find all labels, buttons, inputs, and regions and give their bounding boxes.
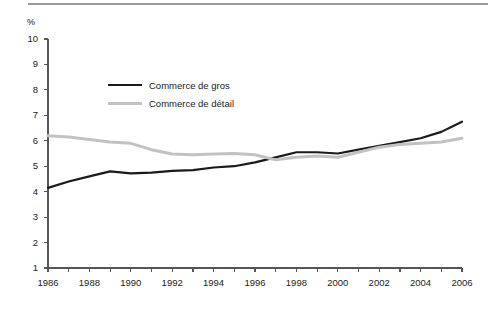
x-axis-tick-label: 2000 — [315, 277, 361, 288]
x-axis-tick-label: 1986 — [25, 277, 71, 288]
series-line-detail — [48, 136, 462, 160]
x-axis-tick-label: 1988 — [66, 277, 112, 288]
chart-legend: Commerce de grosCommerce de détail — [108, 78, 234, 114]
x-axis-tick-label: 1992 — [149, 277, 195, 288]
legend-line-swatch — [108, 84, 142, 86]
y-axis-tick-label: 6 — [16, 136, 38, 146]
legend-line-swatch — [108, 102, 142, 105]
y-axis-tick-label: 7 — [16, 110, 38, 120]
y-axis-tick-label: 5 — [16, 161, 38, 171]
legend-item-label: Commerce de détail — [149, 98, 234, 109]
legend-item-label: Commerce de gros — [149, 80, 230, 91]
y-axis-tick-label: 4 — [16, 187, 38, 197]
x-axis-tick-label: 2002 — [356, 277, 402, 288]
chart-figure: % 12345678910 19861988199019921994199619… — [0, 0, 495, 312]
x-axis-tick-label: 1990 — [108, 277, 154, 288]
plot-area — [0, 0, 495, 312]
x-axis-tick-label: 2004 — [398, 277, 444, 288]
y-axis-tick-label: 9 — [16, 59, 38, 69]
y-axis-tick-label: 2 — [16, 238, 38, 248]
x-axis-tick-label: 1998 — [273, 277, 319, 288]
legend-item: Commerce de gros — [108, 78, 234, 92]
y-axis-tick-label: 1 — [16, 263, 38, 273]
series-group — [48, 122, 462, 188]
x-axis-tick-label: 1996 — [232, 277, 278, 288]
y-axis-tick-label: 10 — [16, 34, 38, 44]
y-axis-tick-label: 3 — [16, 212, 38, 222]
y-axis-tick-label: 8 — [16, 85, 38, 95]
x-axis-tick-label: 2006 — [439, 277, 485, 288]
x-axis-tick-label: 1994 — [191, 277, 237, 288]
legend-item: Commerce de détail — [108, 96, 234, 110]
